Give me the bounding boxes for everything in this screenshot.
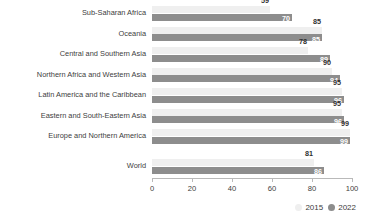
value-label-2015: 99 bbox=[341, 120, 349, 127]
bar-2022[interactable] bbox=[152, 75, 340, 82]
x-axis-tick-label: 20 bbox=[188, 184, 196, 193]
x-axis-tick-label: 0 bbox=[150, 184, 154, 193]
bar-2015[interactable] bbox=[152, 6, 270, 13]
x-axis-tick-label: 40 bbox=[228, 184, 236, 193]
bar-group: 7889 bbox=[152, 47, 352, 63]
value-label-2015: 81 bbox=[305, 150, 313, 157]
bar-2015[interactable] bbox=[152, 47, 308, 54]
bar-group: 5970 bbox=[152, 6, 352, 22]
value-label-2015: 95 bbox=[333, 79, 341, 86]
value-label-2015: 85 bbox=[313, 18, 321, 25]
legend-label-2015: 2015 bbox=[305, 203, 323, 212]
legend-item-2022[interactable]: 2022 bbox=[328, 203, 356, 212]
value-label-2022: 99 bbox=[340, 138, 348, 145]
bar-group: 9999 bbox=[152, 129, 352, 145]
value-label-2022: 70 bbox=[282, 15, 290, 22]
legend-dot-2022-icon bbox=[328, 204, 335, 211]
bar-2022[interactable] bbox=[152, 34, 322, 41]
x-axis-tick bbox=[352, 178, 353, 182]
bar-group: 9094 bbox=[152, 68, 352, 84]
bar-2022[interactable] bbox=[152, 14, 292, 21]
category-axis: Sub-Saharan AfricaOceaniaCentral and Sou… bbox=[0, 4, 152, 172]
bar-group: 8186 bbox=[152, 159, 352, 175]
x-axis-line: 020406080100 bbox=[152, 178, 352, 179]
bar-2015[interactable] bbox=[152, 27, 322, 34]
category-label: World bbox=[127, 162, 146, 169]
bar-2022[interactable] bbox=[152, 96, 344, 103]
category-label: Europe and Northern America bbox=[48, 132, 146, 139]
bar-2022[interactable] bbox=[152, 55, 330, 62]
plot-area: 59708585788990949596959699998186 bbox=[152, 4, 352, 172]
value-label-2015: 78 bbox=[299, 38, 307, 45]
x-axis-tick bbox=[232, 178, 233, 182]
x-axis-tick bbox=[152, 178, 153, 182]
category-label: Central and Southern Asia bbox=[60, 50, 146, 57]
bar-2022[interactable] bbox=[152, 116, 344, 123]
bar-group: 9596 bbox=[152, 88, 352, 104]
bar-2015[interactable] bbox=[152, 159, 314, 166]
bar-2015[interactable] bbox=[152, 109, 342, 116]
legend-dot-2015-icon bbox=[295, 204, 302, 211]
value-label-2022: 86 bbox=[314, 168, 322, 175]
x-axis-tick-label: 100 bbox=[346, 184, 359, 193]
value-label-2015: 90 bbox=[323, 59, 331, 66]
bar-2015[interactable] bbox=[152, 88, 342, 95]
bar-group: 8585 bbox=[152, 27, 352, 43]
legend-label-2022: 2022 bbox=[338, 203, 356, 212]
bar-group: 9596 bbox=[152, 109, 352, 125]
grouped-bar-chart: Sub-Saharan AfricaOceaniaCentral and Sou… bbox=[0, 0, 368, 218]
bar-2022[interactable] bbox=[152, 167, 324, 174]
bar-2015[interactable] bbox=[152, 68, 332, 75]
chart-legend: 2015 2022 bbox=[295, 203, 356, 212]
x-axis-tick bbox=[192, 178, 193, 182]
value-label-2015: 59 bbox=[261, 0, 269, 5]
value-label-2015: 95 bbox=[333, 100, 341, 107]
category-label: Sub-Saharan Africa bbox=[82, 9, 146, 16]
x-axis-tick-label: 60 bbox=[268, 184, 276, 193]
x-axis-tick-label: 80 bbox=[308, 184, 316, 193]
x-axis-tick bbox=[312, 178, 313, 182]
bar-2022[interactable] bbox=[152, 137, 350, 144]
category-label: Latin America and the Caribbean bbox=[38, 91, 146, 98]
category-label: Northern Africa and Western Asia bbox=[37, 71, 146, 78]
legend-item-2015[interactable]: 2015 bbox=[295, 203, 323, 212]
x-axis-tick bbox=[272, 178, 273, 182]
value-label-2022: 85 bbox=[312, 36, 320, 43]
category-label: Eastern and South-Eastern Asia bbox=[41, 112, 146, 119]
bar-2015[interactable] bbox=[152, 129, 350, 136]
category-label: Oceania bbox=[118, 30, 146, 37]
